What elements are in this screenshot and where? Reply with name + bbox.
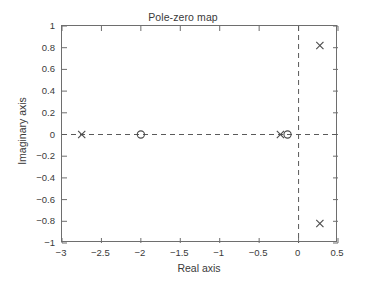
y-tick-label: 0.8: [25, 41, 55, 52]
x-axis-label: Real axis: [61, 262, 337, 274]
plot-area: [61, 25, 337, 242]
y-tick-label: 1: [25, 20, 55, 31]
y-tick-label: 0.6: [25, 63, 55, 74]
y-tick-label: −1: [25, 237, 55, 248]
y-tick-label: −0.8: [25, 215, 55, 226]
y-tick-label: 0.4: [25, 85, 55, 96]
x-tick-label: −1: [213, 247, 224, 258]
x-tick-label: 0.5: [330, 247, 343, 258]
y-tick-label: −0.2: [25, 150, 55, 161]
x-tick-label: 0: [295, 247, 300, 258]
x-tick-label: −2.5: [91, 247, 110, 258]
y-tick-label: −0.6: [25, 193, 55, 204]
x-tick-label: −0.5: [249, 247, 268, 258]
y-tick-label: 0.2: [25, 106, 55, 117]
x-tick-label: −3: [56, 247, 67, 258]
plot-canvas: [62, 26, 338, 243]
y-tick-label: −0.4: [25, 171, 55, 182]
y-axis-label: Imaginary axis: [16, 61, 28, 201]
pole-zero-map-figure: Pole-zero map −3−2.5−2−1.5−1−0.500.5 10.…: [0, 0, 366, 284]
x-tick-label: −1.5: [170, 247, 189, 258]
y-tick-label: 0: [25, 128, 55, 139]
x-tick-label: −2: [134, 247, 145, 258]
reference-lines: [62, 26, 338, 243]
